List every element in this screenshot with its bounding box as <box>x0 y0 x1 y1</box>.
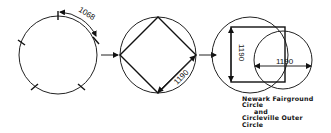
step2-circle-figure: 1190 <box>120 17 196 93</box>
step2-dimension-label: 1190 <box>172 67 191 86</box>
step2-circle <box>120 17 196 93</box>
step3-circles-figure: 1190 1190 <box>212 17 312 93</box>
figure-caption: Newark Fairground Circle and Circleville… <box>242 96 313 128</box>
step1-circle-figure: 1068 <box>18 5 99 94</box>
tick-mark-bottom-right <box>78 84 85 90</box>
step3-vertical-dimension-label: 1190 <box>237 44 246 62</box>
step1-dimension-label: 1068 <box>77 5 97 22</box>
tick-mark-bottom-left <box>31 84 38 90</box>
step3-horizontal-dimension-label: 1190 <box>276 57 294 66</box>
caption-line: Circle <box>242 122 313 128</box>
step1-circle <box>19 16 97 94</box>
